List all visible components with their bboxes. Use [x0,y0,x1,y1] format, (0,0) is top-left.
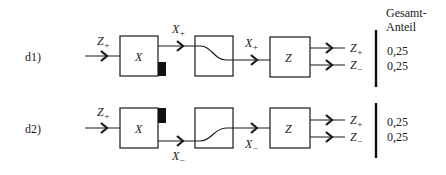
nonlinear-block [195,36,233,76]
block-x-output-label: X− [171,149,185,165]
row-d2: d2) Z+ X X− X− Z Z+ Z− 0,25 0,25 [25,103,408,165]
block-z-label: Z [285,51,292,65]
input-label: Z+ [97,105,110,121]
share-value: 0,25 [387,59,408,73]
output-label-minus: Z− [350,58,363,74]
marker-bottom-right [158,62,166,76]
input-label: Z+ [97,34,110,50]
block-x-output-label: X+ [171,22,185,38]
row-d1: d1) Z+ X X+ X+ Z Z+ Z− 0,25 0,25 [25,22,408,87]
output-label-minus: Z− [350,130,363,146]
block-z-label: Z [285,122,292,136]
block-x-label: X [134,50,143,64]
marker-top-right [158,108,166,123]
share-value: 0,25 [387,130,408,144]
column-title-line2: Anteil [386,20,417,34]
block2-output-label: X+ [244,36,258,52]
signal-flow-diagram: Gesamt- Anteil d1) Z+ X X+ X+ Z Z+ Z− [0,0,446,175]
row-label: d1) [25,50,41,64]
block-x-label: X [134,122,143,136]
output-label-plus: Z+ [350,41,363,57]
block2-output-label: X− [244,137,258,153]
output-label-plus: Z+ [350,113,363,129]
share-value: 0,25 [387,115,408,129]
column-title-line1: Gesamt- [386,6,427,20]
share-value: 0,25 [387,44,408,58]
row-label: d2) [25,122,41,136]
